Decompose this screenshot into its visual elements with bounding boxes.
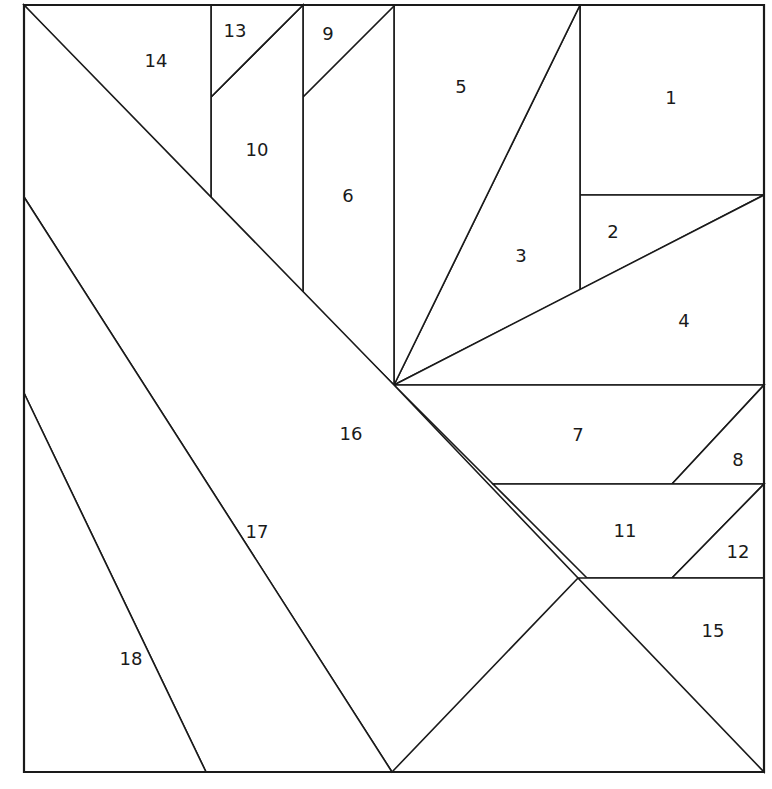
piece-label-17: 17 xyxy=(246,521,269,542)
piece-label-9: 9 xyxy=(322,23,333,44)
piece-label-4: 4 xyxy=(678,310,689,331)
piece-label-16: 16 xyxy=(340,423,363,444)
piece-label-2: 2 xyxy=(607,221,618,242)
piece-label-10: 10 xyxy=(246,139,269,160)
piece-label-14: 14 xyxy=(145,50,168,71)
piece-label-1: 1 xyxy=(665,87,676,108)
quilt-block-diagram: 123456789101112131415161718 xyxy=(0,0,772,789)
piece-label-12: 12 xyxy=(727,541,750,562)
piece-label-18: 18 xyxy=(120,648,143,669)
piece-label-15: 15 xyxy=(702,620,725,641)
piece-label-6: 6 xyxy=(342,185,353,206)
piece-label-3: 3 xyxy=(515,245,526,266)
piece-label-7: 7 xyxy=(572,424,583,445)
piece-label-11: 11 xyxy=(614,520,637,541)
piece-label-8: 8 xyxy=(732,449,743,470)
piece-label-5: 5 xyxy=(455,76,466,97)
piece-label-13: 13 xyxy=(224,20,247,41)
